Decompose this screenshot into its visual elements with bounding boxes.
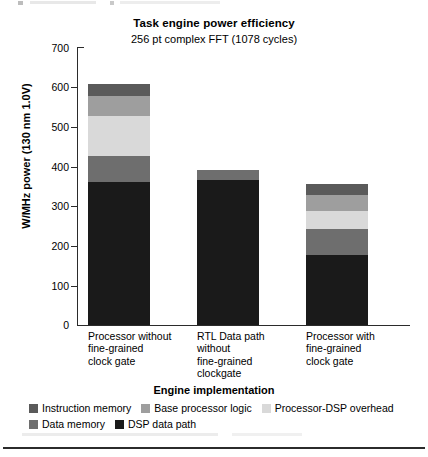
x-category-label-1-line-2: fine-grained [197, 355, 315, 367]
legend-label-dsp-data-path: DSP data path [128, 419, 196, 430]
bar-segment-instruction-memory[interactable] [306, 184, 368, 196]
x-category-labels: Processor withoutfine-grainedclock gate … [0, 330, 428, 382]
bar-segment-data-memory[interactable] [88, 156, 150, 182]
bar-processor-with-fine-grained-clock-gate[interactable] [306, 184, 368, 325]
x-category-label-2-line-1: fine-grained [306, 342, 424, 354]
bar-segment-dsp-data-path[interactable] [306, 255, 368, 325]
bottom-rule [3, 447, 425, 449]
x-category-label-1-line-3: clockgate [197, 367, 315, 379]
bars-layer [0, 0, 428, 325]
bar-segment-dsp-data-path[interactable] [88, 182, 150, 325]
chart-legend: Instruction memoryBase processor logicPr… [29, 402, 428, 434]
bar-segment-instruction-memory[interactable] [88, 84, 150, 96]
legend-swatch-icon-base-processor-logic [141, 404, 150, 413]
legend-label-processor-dsp-overhead: Processor-DSP overhead [275, 403, 394, 414]
legend-label-data-memory: Data memory [42, 419, 105, 430]
bar-rtl-data-path-without-fine-grained-clockgate[interactable] [197, 170, 259, 325]
bar-segment-processor-dsp-overhead[interactable] [306, 211, 368, 229]
bottom-faint-artifact-right [232, 433, 302, 436]
legend-swatch-icon-data-memory [29, 420, 38, 429]
bar-segment-data-memory[interactable] [197, 170, 259, 180]
legend-item-instruction-memory[interactable]: Instruction memory [29, 403, 131, 414]
chart-figure: Task engine power efficiency 256 pt comp… [0, 0, 428, 440]
x-category-label-2-line-0: Processor with [306, 330, 424, 342]
x-axis-title: Engine implementation [0, 384, 428, 396]
x-category-label-0-line-2: clock gate [88, 355, 206, 367]
x-category-label-0-line-1: fine-grained [88, 342, 206, 354]
bar-processor-without-fine-grained-clock-gate[interactable] [88, 84, 150, 325]
plot-area: W/MHz power (130 nm 1.0V) 700 600 500 40… [0, 0, 428, 340]
x-axis-line [77, 325, 410, 326]
x-category-label-1-line-1: without [197, 342, 315, 354]
x-category-label-0: Processor withoutfine-grainedclock gate [88, 330, 206, 367]
x-category-label-1: RTL Data pathwithoutfine-grainedclockgat… [197, 330, 315, 380]
bar-segment-processor-dsp-overhead[interactable] [88, 116, 150, 156]
x-category-label-2-line-2: clock gate [306, 355, 424, 367]
legend-swatch-icon-instruction-memory [29, 404, 38, 413]
bottom-faint-artifact-left [22, 433, 218, 436]
legend-item-processor-dsp-overhead[interactable]: Processor-DSP overhead [262, 403, 394, 414]
legend-row-1: Data memoryDSP data path [29, 418, 428, 431]
legend-item-data-memory[interactable]: Data memory [29, 419, 105, 430]
legend-item-dsp-data-path[interactable]: DSP data path [115, 419, 196, 430]
legend-swatch-icon-dsp-data-path [115, 420, 124, 429]
x-category-label-0-line-0: Processor without [88, 330, 206, 342]
bar-segment-base-processor-logic[interactable] [306, 195, 368, 211]
legend-row-0: Instruction memoryBase processor logicPr… [29, 402, 428, 415]
legend-label-base-processor-logic: Base processor logic [154, 403, 251, 414]
x-category-label-1-line-0: RTL Data path [197, 330, 315, 342]
legend-label-instruction-memory: Instruction memory [42, 403, 131, 414]
bar-segment-base-processor-logic[interactable] [88, 96, 150, 116]
x-category-label-2: Processor withfine-grainedclock gate [306, 330, 424, 367]
bar-segment-dsp-data-path[interactable] [197, 180, 259, 325]
legend-swatch-icon-processor-dsp-overhead [262, 404, 271, 413]
legend-item-base-processor-logic[interactable]: Base processor logic [141, 403, 251, 414]
bar-segment-data-memory[interactable] [306, 229, 368, 255]
